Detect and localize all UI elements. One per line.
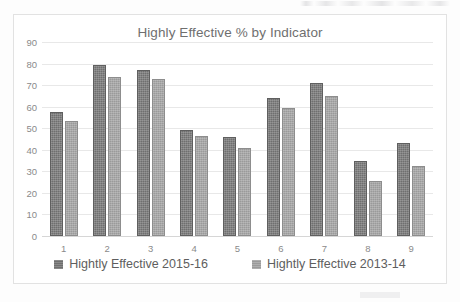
plot-area: 9080706050403020100 123456789 bbox=[42, 42, 433, 236]
bar[interactable] bbox=[310, 83, 323, 236]
x-axis-tick-label: 2 bbox=[105, 243, 110, 254]
legend-label: Hightly Effective 2013-14 bbox=[267, 257, 406, 271]
x-axis-tick-label: 5 bbox=[235, 243, 240, 254]
x-axis-tick-label: 1 bbox=[61, 243, 66, 254]
x-axis-tick-label: 4 bbox=[191, 243, 196, 254]
bar-group: 3 bbox=[132, 42, 170, 236]
y-axis-tick-label: 40 bbox=[26, 144, 37, 155]
y-axis-tick-label: 60 bbox=[26, 101, 37, 112]
bar[interactable] bbox=[65, 121, 78, 236]
bar[interactable] bbox=[180, 130, 193, 236]
scan-artifact-bottom-edge bbox=[360, 292, 400, 298]
y-axis-tick-label: 10 bbox=[26, 209, 37, 220]
legend-swatch-icon bbox=[252, 260, 261, 269]
bar-group: 7 bbox=[305, 42, 343, 236]
bar-group: 8 bbox=[349, 42, 387, 236]
legend-item[interactable]: Hightly Effective 2015-16 bbox=[54, 257, 208, 271]
x-axis-tick-label: 3 bbox=[148, 243, 153, 254]
bar-group: 2 bbox=[88, 42, 126, 236]
bar[interactable] bbox=[412, 166, 425, 236]
x-axis-tick-label: 8 bbox=[365, 243, 370, 254]
chart-container: Highly Effective % by Indicator 90807060… bbox=[13, 14, 447, 284]
y-axis-tick-label: 80 bbox=[26, 58, 37, 69]
bar[interactable] bbox=[223, 137, 236, 236]
bar[interactable] bbox=[282, 108, 295, 236]
legend-swatch-icon bbox=[54, 260, 63, 269]
y-axis-tick-label: 20 bbox=[26, 187, 37, 198]
x-axis-tick-label: 7 bbox=[322, 243, 327, 254]
bar[interactable] bbox=[354, 161, 367, 236]
bar-group: 6 bbox=[262, 42, 300, 236]
bar[interactable] bbox=[137, 70, 150, 236]
bar[interactable] bbox=[93, 65, 106, 236]
legend-item[interactable]: Hightly Effective 2013-14 bbox=[252, 257, 406, 271]
legend-label: Hightly Effective 2015-16 bbox=[69, 257, 208, 271]
chart-legend: Hightly Effective 2015-16Hightly Effecti… bbox=[14, 257, 446, 271]
x-axis-tick-label: 9 bbox=[409, 243, 414, 254]
scan-artifact-top-edge bbox=[300, 1, 450, 6]
bar[interactable] bbox=[50, 112, 63, 236]
chart-title: Highly Effective % by Indicator bbox=[14, 25, 446, 40]
bar[interactable] bbox=[108, 77, 121, 237]
bar[interactable] bbox=[152, 79, 165, 236]
y-axis-tick-label: 0 bbox=[32, 231, 37, 242]
bar[interactable] bbox=[397, 143, 410, 236]
bar[interactable] bbox=[325, 96, 338, 236]
bar-group: 5 bbox=[218, 42, 256, 236]
y-axis-tick-label: 30 bbox=[26, 166, 37, 177]
bar-group: 4 bbox=[175, 42, 213, 236]
bar[interactable] bbox=[238, 148, 251, 236]
gridline: 0 bbox=[42, 236, 433, 237]
x-axis-tick-label: 6 bbox=[278, 243, 283, 254]
bar-group: 9 bbox=[392, 42, 430, 236]
bar[interactable] bbox=[267, 98, 280, 236]
bar[interactable] bbox=[369, 181, 382, 236]
bar-groups: 123456789 bbox=[42, 42, 433, 236]
bar-group: 1 bbox=[45, 42, 83, 236]
y-axis-tick-label: 50 bbox=[26, 123, 37, 134]
y-axis-tick-label: 70 bbox=[26, 80, 37, 91]
bar[interactable] bbox=[195, 136, 208, 236]
